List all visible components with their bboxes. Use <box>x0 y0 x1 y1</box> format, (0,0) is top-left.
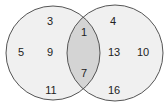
region-number: 5 <box>18 46 24 58</box>
region-number: 7 <box>81 67 87 79</box>
region-number: 11 <box>45 84 56 96</box>
region-number: 1 <box>81 26 87 38</box>
region-number: 10 <box>137 46 149 58</box>
region-number: 16 <box>108 84 120 96</box>
region-number: 3 <box>47 15 53 27</box>
region-number: 4 <box>110 15 116 27</box>
region-number: 9 <box>47 46 53 58</box>
region-number: 13 <box>108 46 120 58</box>
venn-diagram: 3 5 9 11 1 7 4 13 10 16 <box>0 0 168 106</box>
